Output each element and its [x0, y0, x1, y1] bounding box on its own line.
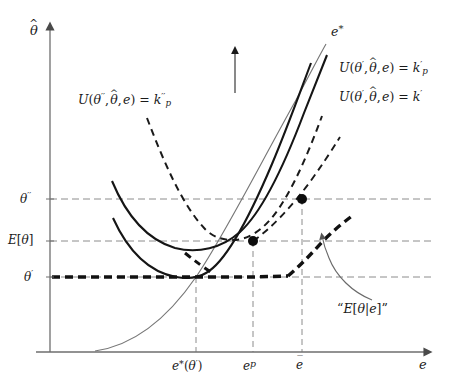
y-axis-label: ^θ: [30, 24, 38, 37]
annotation-label-belief: “E[θ|e]”: [337, 303, 388, 316]
x-tick-label-e-bar: ‾e: [296, 359, 303, 371]
x-tick-label-e-star-theta-prime: e*(θ′): [172, 359, 202, 372]
curve-label-u-theta-prime-k: U(θ′, ^θ, e) = k′: [339, 90, 422, 103]
curve-u-theta-prime-kp: [112, 55, 327, 250]
curve-label-u-theta-prime-kp: U(θ′, ^θ, e) = k′p: [339, 61, 428, 76]
y-tick-label-theta-prime: θ′: [24, 270, 33, 283]
y-tick-label-expected-theta: E[θ]: [8, 234, 33, 246]
curve-label-e-star: e*: [331, 24, 343, 38]
signaling-diagram: ^θ e θ′′ E[θ] θ′ e*(θ′) ep ‾e e* U(θ′′, …: [0, 0, 452, 387]
annotation-pointer-belief: [322, 236, 372, 300]
y-tick-label-theta-double-prime: θ′′: [20, 192, 31, 205]
curve-belief-rising-branch: [288, 216, 352, 276]
marker-separating-point: [297, 194, 307, 204]
x-tick-label-e-pooling: ep: [243, 359, 256, 372]
diagram-canvas: [0, 0, 452, 387]
x-axis-label: e: [419, 358, 427, 371]
curve-label-u-theta-double-prime: U(θ′′, ^θ, e) = k′′p: [78, 93, 171, 108]
curve-e-star-schedule: [95, 44, 326, 351]
marker-pooling-point: [248, 236, 258, 246]
